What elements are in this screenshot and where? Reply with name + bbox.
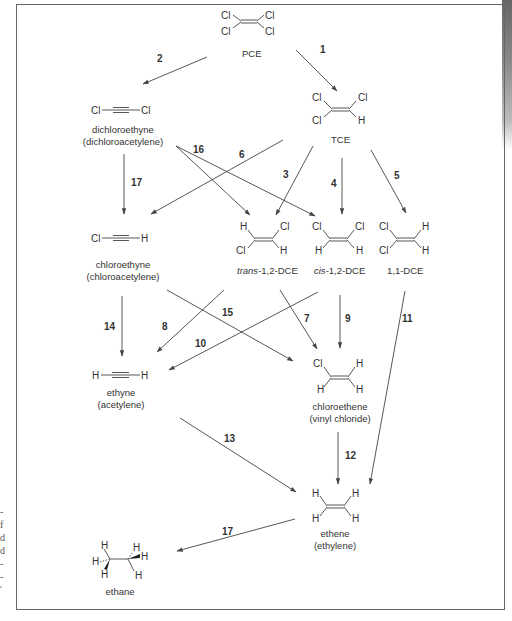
compound-label: ethene bbox=[320, 528, 349, 539]
atom-cl: Cl bbox=[265, 26, 274, 37]
atom-cl: Cl bbox=[221, 10, 230, 21]
compound-dichloroethyne: Cl Cl dichloroethyne (dichloroacetylene) bbox=[83, 105, 163, 147]
atom-h: H bbox=[358, 115, 365, 126]
atom-cl: Cl bbox=[141, 105, 150, 116]
atom-h: H bbox=[352, 488, 359, 499]
compound-label: ethyne bbox=[107, 387, 136, 398]
compound-label: TCE bbox=[331, 134, 350, 145]
compound-common-name: (acetylene) bbox=[98, 399, 145, 410]
atom-cl: Cl bbox=[280, 221, 289, 232]
atom-h: H bbox=[312, 488, 319, 499]
atom-cl: Cl bbox=[312, 92, 321, 103]
compound-common-name: (ethylene) bbox=[314, 540, 356, 551]
atom-h: H bbox=[356, 245, 363, 256]
atom-cl: Cl bbox=[379, 221, 388, 232]
compound-tce: Cl Cl Cl H TCE bbox=[312, 92, 367, 145]
reaction-number-13: 13 bbox=[224, 433, 236, 444]
atom-h: H bbox=[352, 513, 359, 524]
compound-ethyne: H H ethyne (acetylene) bbox=[92, 370, 148, 410]
atom-h: H bbox=[280, 245, 287, 256]
atom-h: H bbox=[141, 233, 148, 244]
atom-h: H bbox=[422, 245, 429, 256]
atom-cl: Cl bbox=[312, 115, 321, 126]
atom-cl: Cl bbox=[358, 92, 367, 103]
reaction-number-5: 5 bbox=[394, 170, 400, 181]
reaction-number-10: 10 bbox=[195, 338, 207, 349]
reaction-number-17a: 17 bbox=[131, 177, 143, 188]
compound-ethene: H H H H ethene (ethylene) bbox=[312, 488, 359, 551]
atom-h: H bbox=[317, 384, 324, 395]
compound-label: trans-1,2-DCE bbox=[237, 265, 298, 276]
atom-h: H bbox=[141, 370, 148, 381]
stereo-prefix: trans bbox=[237, 265, 258, 276]
reaction-number-1: 1 bbox=[320, 44, 326, 55]
compound-chloroethyne: Cl H chloroethyne (chloroacetylene) bbox=[87, 233, 160, 282]
atom-h: H bbox=[315, 245, 322, 256]
atom-h: H bbox=[312, 513, 319, 524]
reaction-number-17b: 17 bbox=[222, 526, 234, 537]
reaction-number-11: 11 bbox=[402, 313, 413, 324]
reaction-number-8: 8 bbox=[162, 321, 168, 332]
atom-cl: Cl bbox=[221, 26, 230, 37]
reaction-number-2: 2 bbox=[157, 53, 163, 64]
reaction-number-3: 3 bbox=[283, 169, 289, 180]
reaction-numbers: 1 2 3 4 5 6 7 8 9 10 11 12 13 14 15 16 1… bbox=[104, 44, 413, 537]
reaction-number-7: 7 bbox=[304, 313, 310, 324]
compound-label: chloroethene bbox=[313, 401, 368, 412]
atom-h: H bbox=[141, 551, 148, 562]
atom-h: H bbox=[356, 384, 363, 395]
compound-label: chloroethyne bbox=[96, 259, 150, 270]
atom-h: H bbox=[422, 221, 429, 232]
reaction-number-14: 14 bbox=[104, 321, 116, 332]
atom-h: H bbox=[135, 570, 142, 581]
atom-cl: Cl bbox=[91, 105, 100, 116]
atom-h: H bbox=[101, 540, 108, 551]
reaction-diagram: - f d d - - ' bbox=[0, 0, 512, 621]
compound-label-suffix: -1,2-DCE bbox=[326, 265, 366, 276]
atom-cl: Cl bbox=[91, 233, 100, 244]
reaction-number-12: 12 bbox=[345, 450, 357, 461]
atom-cl: Cl bbox=[355, 221, 364, 232]
atom-h: H bbox=[240, 221, 247, 232]
compound-label: cis-1,2-DCE bbox=[314, 265, 365, 276]
compound-label-suffix: -1,2-DCE bbox=[258, 265, 298, 276]
reaction-number-16: 16 bbox=[193, 144, 205, 155]
compound-11-dce: Cl H Cl H 1,1-DCE bbox=[379, 221, 429, 276]
compound-common-name: (vinyl chloride) bbox=[309, 413, 370, 424]
compound-ethane: H H H H H H ethane bbox=[92, 540, 148, 597]
atom-cl: Cl bbox=[236, 245, 245, 256]
compound-label: ethane bbox=[105, 586, 134, 597]
atom-cl: Cl bbox=[265, 10, 274, 21]
compound-trans-12-dce: H Cl Cl H trans-1,2-DCE bbox=[236, 221, 298, 276]
compound-cis-12-dce: Cl Cl H H cis-1,2-DCE bbox=[312, 221, 365, 276]
reaction-number-9: 9 bbox=[345, 313, 351, 324]
atom-h: H bbox=[92, 370, 99, 381]
compound-label: 1,1-DCE bbox=[387, 265, 423, 276]
atom-h: H bbox=[356, 358, 363, 369]
compound-chloroethene: Cl H H H chloroethene (vinyl chloride) bbox=[309, 358, 370, 424]
compound-label: PCE bbox=[242, 48, 262, 59]
figure-frame bbox=[17, 5, 505, 610]
atom-cl: Cl bbox=[312, 221, 321, 232]
reaction-number-15: 15 bbox=[222, 307, 234, 318]
compound-pce: Cl Cl Cl Cl PCE bbox=[221, 10, 274, 59]
atom-cl: Cl bbox=[313, 358, 322, 369]
reaction-number-4: 4 bbox=[331, 178, 337, 189]
compound-label: dichloroethyne bbox=[92, 124, 154, 135]
atom-h: H bbox=[101, 569, 108, 580]
atom-h: H bbox=[92, 556, 99, 567]
reaction-number-6: 6 bbox=[239, 149, 245, 160]
compound-common-name: (dichloroacetylene) bbox=[83, 136, 163, 147]
stereo-prefix: cis bbox=[314, 265, 326, 276]
atom-h: H bbox=[133, 542, 140, 553]
atom-cl: Cl bbox=[379, 245, 388, 256]
compound-common-name: (chloroacetylene) bbox=[87, 271, 160, 282]
